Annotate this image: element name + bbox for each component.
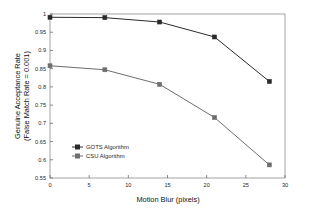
data-point-marker xyxy=(267,79,271,83)
y-axis-title-line2: (False Match Rate = 0.001) xyxy=(22,51,31,141)
chart-figure: 0.550.60.650.70.750.80.850.90.951 051015… xyxy=(0,0,310,214)
data-point-marker xyxy=(48,64,52,68)
x-tick-label: 5 xyxy=(88,182,91,188)
data-point-marker xyxy=(213,35,217,39)
y-tick-label: 0.7 xyxy=(38,120,46,126)
x-tick-label: 0 xyxy=(48,182,51,188)
legend-label: GOTS Algorithm xyxy=(86,144,129,150)
y-axis-title-line1: Genuine Acceptance Rate xyxy=(13,53,22,139)
x-axis-title: Motion Blur (pixels) xyxy=(136,195,199,204)
data-point-marker xyxy=(103,68,107,72)
x-tick-label: 30 xyxy=(282,182,288,188)
y-axis-title: Genuine Acceptance Rate (False Match Rat… xyxy=(13,51,31,141)
legend-marker-icon xyxy=(76,145,80,149)
y-tick-label: 1 xyxy=(43,11,46,17)
data-point-marker xyxy=(158,82,162,86)
y-tick-label: 0.9 xyxy=(38,47,46,53)
x-axis-ticks: 051015202530 xyxy=(48,175,288,188)
data-point-marker xyxy=(158,20,162,24)
y-tick-label: 0.95 xyxy=(35,29,46,35)
line-chart: 0.550.60.650.70.750.80.850.90.951 051015… xyxy=(0,0,310,214)
y-tick-label: 0.6 xyxy=(38,157,46,163)
y-tick-label: 0.55 xyxy=(35,175,46,181)
y-tick-label: 0.8 xyxy=(38,84,46,90)
legend-marker-icon xyxy=(76,154,80,158)
y-tick-label: 0.65 xyxy=(35,139,46,145)
series-line xyxy=(50,66,269,165)
x-tick-label: 20 xyxy=(204,182,210,188)
data-point-marker xyxy=(103,16,107,20)
legend-label: CSU Algorithm xyxy=(86,153,125,159)
series-gots xyxy=(48,15,271,83)
y-tick-label: 0.75 xyxy=(35,102,46,108)
data-point-marker xyxy=(213,116,217,120)
data-point-marker xyxy=(267,163,271,167)
x-tick-label: 25 xyxy=(243,182,249,188)
chart-legend: GOTS AlgorithmCSU Algorithm xyxy=(72,144,129,159)
legend-item-csu[interactable]: CSU Algorithm xyxy=(72,153,125,159)
legend-item-gots[interactable]: GOTS Algorithm xyxy=(72,144,129,150)
y-tick-label: 0.85 xyxy=(35,66,46,72)
data-point-marker xyxy=(48,15,52,19)
x-tick-label: 10 xyxy=(125,182,131,188)
x-tick-label: 15 xyxy=(164,182,170,188)
series-line xyxy=(50,17,269,81)
series-csu xyxy=(48,64,271,167)
series-layer xyxy=(48,15,271,167)
